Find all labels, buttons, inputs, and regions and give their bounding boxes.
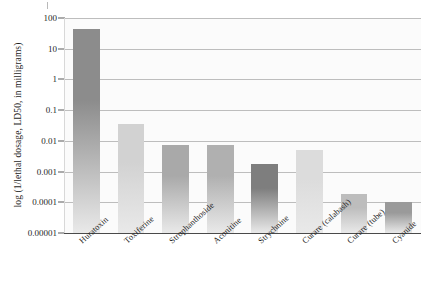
x-axis-tick-labels: HuratoxinToxiferineStrophanthosideAconit… (64, 234, 421, 304)
y-tick-label: 0.00001 (28, 229, 57, 238)
bar (162, 145, 189, 233)
bar-chart: log (1/lethal dosage, LD50, in milligram… (0, 0, 432, 304)
y-axis-tick-labels: 1001010.10.010.0010.00010.00001 (0, 0, 57, 304)
bar (118, 124, 145, 233)
y-tick-label: 0.001 (37, 167, 57, 176)
y-tick-label: 0.1 (46, 106, 57, 115)
y-tick-label: 10 (48, 44, 57, 53)
y-tick-label: 100 (44, 14, 58, 23)
bar-series (64, 18, 421, 233)
y-tick-label: 0.0001 (32, 198, 57, 207)
y-tick-label: 0.01 (41, 136, 57, 145)
y-tick-label: 1 (53, 75, 58, 84)
bar (73, 29, 100, 233)
